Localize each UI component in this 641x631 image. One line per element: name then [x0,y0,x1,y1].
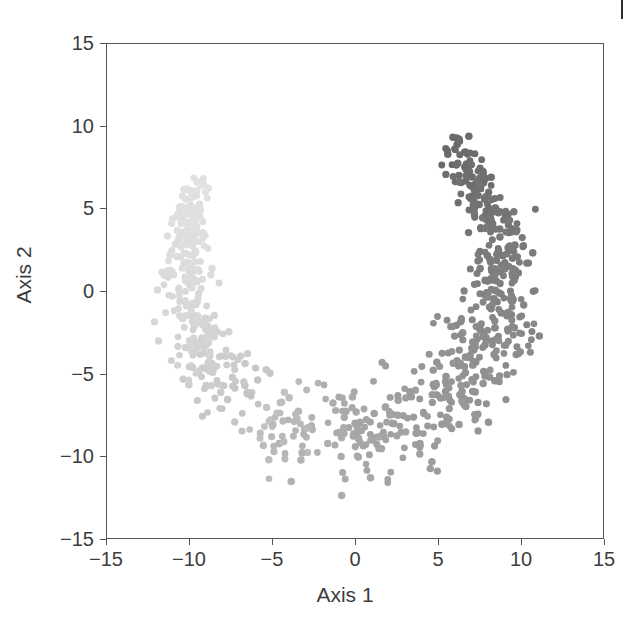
scatter-point [193,223,200,230]
scatter-point [468,376,475,383]
scatter-point [154,286,161,293]
y-tick-label: 15 [36,31,94,55]
scatter-point [268,433,275,440]
scatter-point [281,389,288,396]
scatter-point [322,396,329,403]
scatter-point [387,431,394,438]
scatter-point [514,253,521,260]
y-tick-mark [100,456,106,457]
scatter-point [472,415,479,422]
scatter-point [508,316,515,323]
scatter-point [465,354,473,362]
x-tick-mark [438,539,439,545]
scatter-point [430,366,437,373]
scatter-point [205,245,212,252]
scatter-point [438,350,445,357]
scatter-point [282,456,289,463]
scatter-point [285,394,292,401]
scatter-point [475,180,482,187]
scatter-point [227,352,234,359]
scatter-point [303,386,310,393]
scatter-point [219,405,226,412]
scatter-point [185,376,192,383]
page-edge-artifact [621,0,623,19]
scatter-point [223,362,230,369]
scatter-point [489,314,496,321]
scatter-point [459,399,466,406]
scatter-point [457,191,464,198]
scatter-point [469,192,477,200]
scatter-point [503,362,510,369]
x-tick-label: −5 [242,547,302,571]
scatter-point [469,316,476,323]
scatter-point [492,204,499,211]
scatter-point [496,280,503,287]
scatter-point [459,296,466,303]
y-tick-mark [100,291,106,292]
scatter-point [171,307,178,314]
y-tick-label: −15 [36,527,94,551]
scatter-point [363,461,370,468]
scatter-point [460,287,467,294]
scatter-point [513,229,520,236]
scatter-point [488,286,495,293]
scatter-point [512,273,519,280]
y-tick-label: 5 [36,196,94,220]
scatter-point [455,138,462,145]
scatter-point [162,309,169,316]
scatter-point [468,345,475,352]
scatter-point [504,309,511,316]
scatter-point [351,420,358,427]
scatter-point [246,426,253,433]
scatter-point [495,376,502,383]
scatter-point [291,418,298,425]
scatter-point [487,173,495,181]
scatter-point [500,252,507,259]
scatter-point [527,349,534,356]
scatter-point [370,378,377,385]
scatter-point [266,370,273,377]
scatter-point [371,410,378,417]
scatter-point [314,449,321,456]
scatter-point [303,434,310,441]
scatter-point [242,360,249,367]
scatter-point [511,324,518,331]
scatter-point [456,346,463,353]
scatter-point [377,422,384,429]
scatter-point [335,394,342,401]
scatter-point [428,458,436,466]
scatter-point [279,433,286,440]
scatter-point [397,423,404,430]
scatter-point [457,332,464,339]
scatter-point [188,187,195,194]
scatter-point [467,265,474,272]
scatter-point [434,467,441,474]
scatter-point [399,454,406,461]
scatter-point [434,313,441,320]
scatter-point [501,259,508,266]
scatter-point [199,413,206,420]
scatter-point [417,442,424,449]
scatter-point [364,467,371,474]
scatter-point [476,256,483,263]
scatter-point [209,369,216,376]
scatter-point [382,436,389,443]
scatter-point [513,351,521,359]
scatter-point [229,383,236,390]
scatter-point [308,414,315,421]
scatter-point [203,382,210,389]
scatter-point [418,379,425,386]
scatter-point [502,396,509,403]
scatter-point [484,294,491,301]
scatter-point [487,275,494,282]
scatter-point [231,366,238,373]
scatter-point [513,343,520,350]
scatter-point [510,208,517,215]
scatter-point [165,292,172,299]
scatter-point [510,332,517,339]
scatter-point [176,209,183,216]
scatter-point [208,265,215,272]
scatter-point [192,259,199,266]
scatter-point [295,378,302,385]
scatter-point [175,333,182,340]
